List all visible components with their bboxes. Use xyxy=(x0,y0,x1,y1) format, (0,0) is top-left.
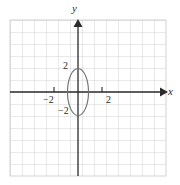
x-axis-label: x xyxy=(168,86,173,97)
coordinate-plane xyxy=(0,0,180,185)
y-tick-label-negative-two: −2 xyxy=(58,106,69,116)
x-tick-label-positive-two: 2 xyxy=(106,95,111,105)
graph-figure: y x −2 2 2 −2 xyxy=(0,0,180,185)
y-axis-label: y xyxy=(72,3,77,14)
x-tick-label-negative-two: −2 xyxy=(43,95,54,105)
y-tick-label-positive-two: 2 xyxy=(63,61,68,71)
